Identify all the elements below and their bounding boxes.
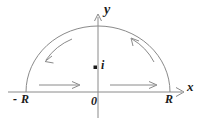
origin-label: 0 [91,95,97,107]
contour-diagram: y x 0 - R R i [0,0,204,126]
pole-label: i [101,59,104,71]
right-arc-direction-arrow-shaft [132,39,154,62]
left-endpoint-label: - R [13,93,30,105]
x-axis-label: x [187,80,194,93]
right-endpoint-label: R [165,93,173,105]
y-axis-label: y [104,3,110,17]
left-arc-direction-arrow-shaft [46,39,72,60]
pole-marker-dot [94,66,98,70]
